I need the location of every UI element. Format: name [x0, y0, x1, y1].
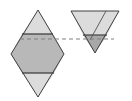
diagram-canvas	[0, 0, 132, 101]
diamond-shape	[11, 10, 64, 97]
diamond-top-triangle	[22, 10, 53, 34]
geometry-figure	[0, 0, 132, 101]
triangle-shape	[71, 11, 119, 53]
diamond-bottom-triangle	[22, 73, 54, 97]
